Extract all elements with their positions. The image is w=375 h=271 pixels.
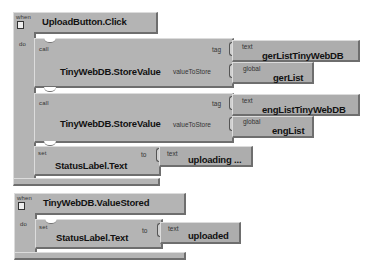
global-kind-label: global	[243, 65, 260, 72]
event-collapse-icon[interactable]	[18, 202, 25, 210]
set-label: set	[39, 224, 48, 230]
global-value[interactable]: engList	[272, 125, 304, 136]
text-kind-label: text	[168, 225, 178, 232]
event-footer	[13, 178, 160, 186]
when-label: when	[17, 195, 32, 201]
global-kind-label: global	[243, 118, 260, 125]
call-block-store-value[interactable]	[34, 38, 234, 88]
global-value[interactable]: gerList	[273, 72, 303, 83]
to-label: to	[141, 151, 146, 158]
event-name: TinyWebDB.ValueStored	[43, 197, 149, 208]
text-value[interactable]: uploaded	[188, 230, 229, 241]
text-kind-label: text	[167, 150, 177, 157]
text-value[interactable]: uploading ...	[188, 154, 241, 165]
set-label: set	[38, 150, 47, 156]
call-label: call	[39, 100, 49, 106]
property-name: StatusLabel.Text	[56, 232, 128, 243]
event-spine	[13, 32, 36, 184]
tag-socket-label: tag	[212, 100, 221, 107]
do-label: do	[19, 41, 26, 47]
property-name: StatusLabel.Text	[55, 160, 127, 171]
value-socket-label: valueToStore	[173, 121, 211, 128]
method-name: TinyWebDB.StoreValue	[60, 66, 161, 77]
call-label: call	[39, 46, 49, 52]
text-value[interactable]: engListTinyWebDB	[262, 104, 346, 115]
event-collapse-icon[interactable]	[17, 21, 24, 29]
when-label: when	[16, 14, 31, 20]
value-socket-label: valueToStore	[173, 68, 211, 75]
statement-notch	[44, 87, 56, 92]
text-kind-label: text	[242, 43, 252, 50]
to-label: to	[142, 227, 147, 234]
do-label: do	[20, 221, 27, 227]
event-footer	[14, 252, 186, 260]
text-value[interactable]: gerListTinyWebDB	[262, 50, 343, 61]
method-name: TinyWebDB.StoreValue	[60, 118, 161, 129]
event-name: UploadButton.Click	[42, 16, 127, 27]
text-kind-label: text	[242, 97, 252, 104]
tag-socket-label: tag	[212, 46, 221, 53]
